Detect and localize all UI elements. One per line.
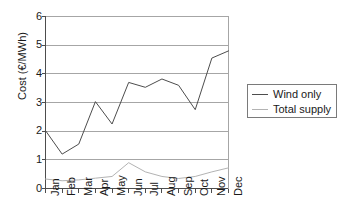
line-chart: Cost (€/MWh) 0123456 JanFebMarAprMayJunJ…: [0, 0, 353, 221]
legend-swatch-wind-only: [252, 94, 268, 95]
x-tick-label-jan: Jan: [50, 178, 61, 196]
x-tick-label-nov: Nov: [216, 176, 227, 196]
legend-swatch-total-supply: [252, 109, 268, 110]
x-tick-label-sep: Sep: [183, 176, 194, 196]
x-tick-label-aug: Aug: [166, 176, 177, 196]
x-tick-label-dec: Dec: [233, 176, 244, 196]
legend-label-total-supply: Total supply: [273, 104, 331, 115]
x-tick-label-jun: Jun: [133, 178, 144, 196]
x-tick-label-feb: Feb: [66, 177, 77, 196]
x-tick-label-may: May: [116, 175, 127, 196]
x-tick-label-oct: Oct: [199, 178, 210, 195]
legend-item-wind-only: Wind only: [252, 87, 321, 102]
legend-item-total-supply: Total supply: [252, 102, 331, 117]
chart-legend: Wind only Total supply: [247, 84, 337, 118]
legend-label-wind-only: Wind only: [273, 89, 321, 100]
x-tick-label-mar: Mar: [83, 177, 94, 196]
x-tick-label-jul: Jul: [149, 181, 160, 195]
x-tick-label-apr: Apr: [99, 178, 110, 195]
